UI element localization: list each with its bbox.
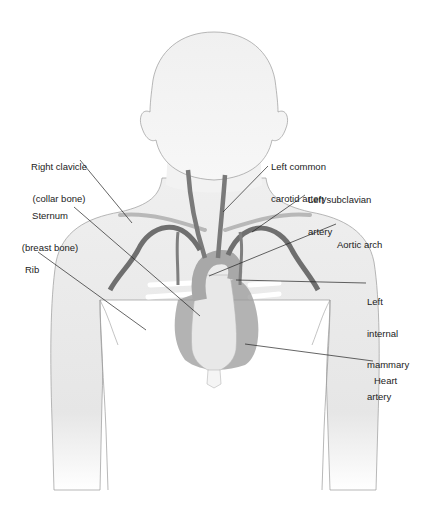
label-line: Rib bbox=[25, 265, 39, 276]
right-internal-mammary bbox=[177, 232, 178, 285]
left-internal-mammary-vessel bbox=[240, 232, 242, 285]
costal-cartilage-left bbox=[238, 368, 272, 400]
label-line: Aortic arch bbox=[337, 240, 382, 251]
xiphoid-process bbox=[207, 370, 221, 388]
label-line: Left bbox=[367, 297, 409, 308]
label-line: Right clavicle bbox=[28, 162, 90, 173]
left-armpit-line bbox=[312, 300, 330, 345]
label-heart: Heart bbox=[374, 355, 397, 397]
label-line: Left common bbox=[271, 162, 326, 173]
label-rib: Rib bbox=[25, 244, 39, 286]
label-line: Left subclavian bbox=[308, 195, 371, 206]
head-outline bbox=[140, 32, 287, 180]
right-armpit-line bbox=[100, 300, 118, 345]
label-line: Sternum bbox=[20, 211, 80, 222]
costal-cartilage-right bbox=[160, 368, 192, 400]
label-line: Heart bbox=[374, 376, 397, 387]
label-line: internal bbox=[367, 329, 409, 340]
label-aortic-arch: Aortic arch bbox=[337, 219, 382, 261]
